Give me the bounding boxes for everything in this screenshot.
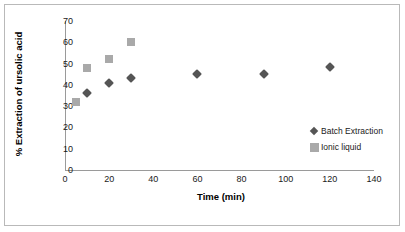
data-point [104, 78, 114, 88]
data-point [82, 88, 92, 98]
data-point [72, 98, 80, 106]
x-tick-60: 60 [182, 174, 212, 184]
chart-figure: % Extraction of ursolic acid Time (min) … [4, 4, 400, 226]
x-tick-80: 80 [227, 174, 257, 184]
y-axis-title: % Extraction of ursolic acid [13, 0, 27, 19]
y-tick-70: 70 [33, 16, 73, 26]
legend-item-label: Ionic liquid [321, 142, 361, 152]
legend-item: Ionic liquid [310, 139, 383, 155]
y-tick-60: 60 [33, 37, 73, 47]
legend-item: Batch Extraction [310, 123, 383, 139]
legend-diamond-icon [310, 127, 318, 135]
x-tick-0: 0 [50, 174, 80, 184]
y-axis-title-text: % Extraction of ursolic acid [13, 19, 24, 169]
data-point [126, 74, 136, 84]
data-point [105, 55, 113, 63]
x-tick-20: 20 [94, 174, 124, 184]
data-point [83, 64, 91, 72]
data-point [192, 69, 202, 79]
x-axis-title: Time (min) [65, 191, 377, 202]
y-tick-40: 40 [33, 80, 73, 90]
x-tick-100: 100 [271, 174, 301, 184]
legend-item-label: Batch Extraction [321, 126, 383, 136]
y-tick-30: 30 [33, 101, 73, 111]
x-tick-140: 140 [359, 174, 389, 184]
data-point [259, 69, 269, 79]
data-point [127, 38, 135, 46]
x-axis-line [65, 170, 374, 171]
x-tick-120: 120 [315, 174, 345, 184]
chart-legend: Batch ExtractionIonic liquid [310, 123, 383, 155]
y-tick-50: 50 [33, 59, 73, 69]
y-tick-10: 10 [33, 144, 73, 154]
y-tick-20: 20 [33, 122, 73, 132]
legend-square-icon [310, 143, 319, 152]
data-point [325, 62, 335, 72]
x-tick-40: 40 [138, 174, 168, 184]
